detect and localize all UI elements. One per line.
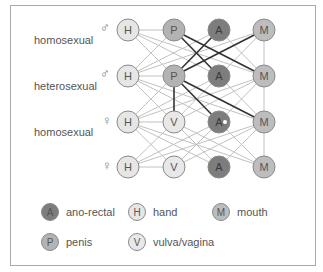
legend-penis: P penis xyxy=(41,233,92,251)
legend-label: vulva/vagina xyxy=(153,236,214,248)
male-symbol-icon: ♂ xyxy=(100,21,110,34)
svg-text:M: M xyxy=(259,24,268,36)
penis-node-icon: P xyxy=(41,233,59,251)
legend-label: hand xyxy=(153,206,177,218)
node-h-row3: H xyxy=(117,111,139,133)
svg-text:M: M xyxy=(259,161,268,173)
row-label-homosexual-female: homosexual xyxy=(34,126,93,138)
node-h-row2: H xyxy=(117,65,139,87)
female-symbol-icon: ♀ xyxy=(102,159,112,172)
node-m-row1: M xyxy=(253,19,275,41)
anal-node-icon: A xyxy=(41,203,59,221)
legend-ano-rectal: A ano-rectal xyxy=(41,203,115,221)
svg-text:H: H xyxy=(124,70,132,82)
svg-text:H: H xyxy=(124,116,132,128)
node-h-row4: H xyxy=(117,156,139,178)
node-p-row2: P xyxy=(163,65,185,87)
legend-mouth: M mouth xyxy=(212,203,268,221)
svg-text:A: A xyxy=(215,161,223,173)
node-v-row4: V xyxy=(163,156,185,178)
row-label-heterosexual: heterosexual xyxy=(34,80,97,92)
svg-text:M: M xyxy=(259,70,268,82)
hand-node-icon: H xyxy=(128,203,146,221)
female-symbol-icon: ♀ xyxy=(102,114,112,127)
node-m-row4: M xyxy=(253,156,275,178)
svg-text:P: P xyxy=(170,70,177,82)
mouth-node-icon: M xyxy=(212,203,230,221)
vulva-node-icon: V xyxy=(128,233,146,251)
svg-text:A: A xyxy=(215,116,223,128)
svg-text:M: M xyxy=(259,116,268,128)
legend-vulva-vagina: V vulva/vagina xyxy=(128,233,214,251)
node-a-row2: A xyxy=(208,65,230,87)
svg-text:V: V xyxy=(170,161,178,173)
node-m-row3: M xyxy=(253,111,275,133)
marker-dot xyxy=(223,120,227,124)
svg-text:A: A xyxy=(215,24,223,36)
row-label-homosexual-male: homosexual xyxy=(34,34,93,46)
svg-text:H: H xyxy=(124,161,132,173)
legend-label: mouth xyxy=(237,206,268,218)
male-symbol-icon: ♂ xyxy=(100,67,110,80)
legend-label: penis xyxy=(66,236,92,248)
svg-text:H: H xyxy=(124,24,132,36)
legend-hand: H hand xyxy=(128,203,177,221)
node-v-row3: V xyxy=(163,111,185,133)
node-a-row4: A xyxy=(208,156,230,178)
node-m-row2: M xyxy=(253,65,275,87)
node-a-row1: A xyxy=(208,19,230,41)
svg-text:V: V xyxy=(170,116,178,128)
svg-text:A: A xyxy=(215,70,223,82)
node-p-row1: P xyxy=(163,19,185,41)
svg-text:P: P xyxy=(170,24,177,36)
legend-label: ano-rectal xyxy=(66,206,115,218)
node-h-row1: H xyxy=(117,19,139,41)
